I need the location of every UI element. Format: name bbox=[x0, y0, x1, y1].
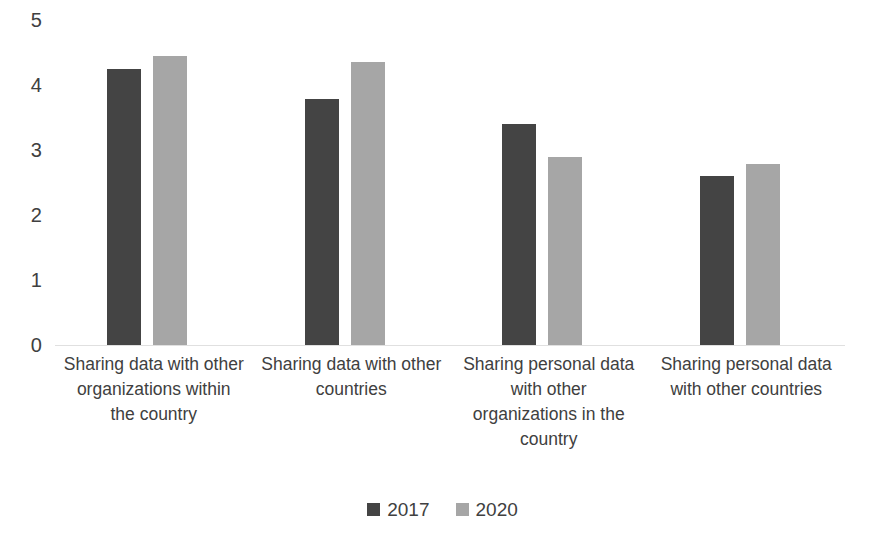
bar-group bbox=[253, 20, 451, 345]
bar-group bbox=[648, 20, 846, 345]
x-axis-category-labels: Sharing data with other organizations wi… bbox=[55, 352, 845, 472]
category-label: Sharing data with other organizations wi… bbox=[55, 352, 253, 427]
category-label: Sharing personal data with other organiz… bbox=[450, 352, 648, 452]
y-tick-label: 0 bbox=[31, 335, 42, 355]
bar-2017 bbox=[107, 69, 141, 345]
bar-2017 bbox=[700, 176, 734, 345]
y-tick-label: 3 bbox=[31, 140, 42, 160]
bar-2017 bbox=[502, 124, 536, 345]
legend-swatch-icon bbox=[367, 503, 380, 516]
y-tick-label: 2 bbox=[31, 205, 42, 225]
y-axis: 5 4 3 2 1 0 bbox=[0, 20, 48, 345]
x-axis-line bbox=[55, 345, 845, 346]
bar-2020 bbox=[351, 62, 385, 345]
legend-entry-2020: 2020 bbox=[456, 500, 518, 519]
plot-area bbox=[55, 20, 845, 345]
category-label: Sharing data with other countries bbox=[253, 352, 451, 402]
bar-2020 bbox=[153, 56, 187, 345]
legend-entry-2017: 2017 bbox=[367, 500, 429, 519]
legend-label: 2020 bbox=[476, 500, 518, 519]
y-tick-label: 4 bbox=[31, 75, 42, 95]
legend-label: 2017 bbox=[387, 500, 429, 519]
chart-legend: 2017 2020 bbox=[0, 500, 885, 519]
y-tick-label: 1 bbox=[31, 270, 42, 290]
bar-chart: 5 4 3 2 1 0 Sharing data with other orga… bbox=[0, 0, 885, 547]
y-tick-label: 5 bbox=[31, 10, 42, 30]
bar-group bbox=[450, 20, 648, 345]
bar-2020 bbox=[746, 164, 780, 345]
bar-group bbox=[55, 20, 253, 345]
legend-swatch-icon bbox=[456, 503, 469, 516]
category-label: Sharing personal data with other countri… bbox=[648, 352, 846, 402]
bar-2017 bbox=[305, 99, 339, 345]
bar-2020 bbox=[548, 157, 582, 346]
